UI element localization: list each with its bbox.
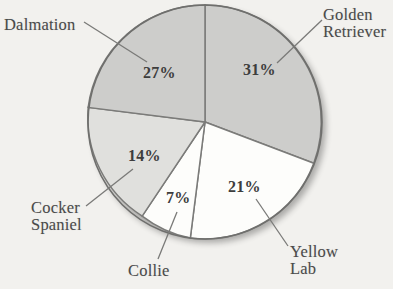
pie-value-yellow-lab: 21% (228, 178, 261, 196)
pie-label-collie: Collie (128, 262, 170, 279)
pie-label-dalmation: Dalmation (4, 16, 75, 33)
pie-label-golden-retriever: Golden Retriever (323, 6, 386, 40)
pie-value-dalmation: 27% (143, 64, 176, 82)
pie-chart-figure: Dalmation Golden Retriever Cocker Spanie… (0, 0, 393, 289)
pie-value-cocker-spaniel: 14% (128, 147, 161, 165)
pie-value-golden-retriever: 31% (243, 61, 276, 79)
pie-label-yellow-lab: Yellow Lab (290, 243, 338, 277)
pie-value-collie: 7% (166, 189, 191, 207)
pie-label-cocker-spaniel: Cocker Spaniel (31, 199, 82, 233)
